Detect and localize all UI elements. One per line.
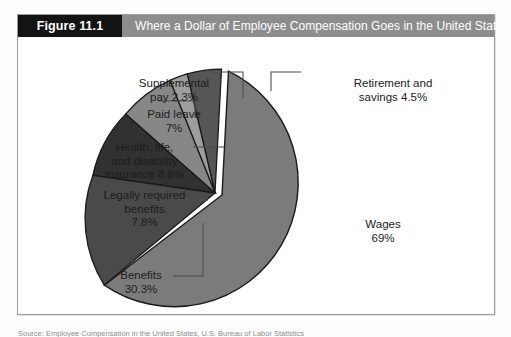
label-wages: Wages 69% bbox=[338, 217, 428, 245]
label-legally-required-line3: 7.8% bbox=[62, 216, 227, 230]
label-benefits-total-line2: 30.3% bbox=[80, 283, 202, 297]
label-retirement-savings: Retirement and savings 4.5% bbox=[318, 77, 468, 104]
label-health-insurance: Health, life, and disability insurance 8… bbox=[62, 141, 227, 182]
label-paid-leave: Paid leave 7% bbox=[121, 108, 227, 135]
label-legally-required-line2: benefits bbox=[62, 203, 227, 217]
label-retirement-savings-line1: Retirement and bbox=[318, 77, 468, 91]
figure-container: Figure 11.1 Where a Dollar of Employee C… bbox=[17, 14, 495, 315]
figure-number-badge: Figure 11.1 bbox=[18, 15, 122, 37]
label-wages-line1: Wages bbox=[338, 217, 428, 231]
label-legally-required-line1: Legally required bbox=[62, 189, 227, 203]
label-health-insurance-line3: insurance 8.8% bbox=[62, 168, 227, 182]
label-health-insurance-line2: and disability bbox=[62, 155, 227, 169]
label-supplemental-pay-line1: Supplemental bbox=[121, 77, 227, 91]
label-health-insurance-line1: Health, life, bbox=[62, 141, 227, 155]
leader-line-retirement bbox=[271, 72, 301, 91]
label-wages-line2: 69% bbox=[338, 231, 428, 245]
label-paid-leave-line2: 7% bbox=[121, 122, 227, 136]
label-retirement-savings-line2: savings 4.5% bbox=[318, 91, 468, 105]
label-legally-required-benefits: Legally required benefits 7.8% bbox=[62, 189, 227, 230]
label-supplemental-pay-line2: pay 2.3% bbox=[121, 91, 227, 105]
chart-plot-area: Supplemental pay 2.3% Paid leave 7% Heal… bbox=[18, 37, 494, 316]
figure-title: Where a Dollar of Employee Compensation … bbox=[122, 15, 509, 37]
label-supplemental-pay: Supplemental pay 2.3% bbox=[121, 77, 227, 104]
source-note: Source: Employee Compensation in the Uni… bbox=[18, 329, 304, 337]
label-paid-leave-line1: Paid leave bbox=[121, 108, 227, 122]
figure-header: Figure 11.1 Where a Dollar of Employee C… bbox=[18, 15, 494, 37]
label-benefits-total: Benefits 30.3% bbox=[80, 269, 202, 296]
label-benefits-total-line1: Benefits bbox=[80, 269, 202, 283]
